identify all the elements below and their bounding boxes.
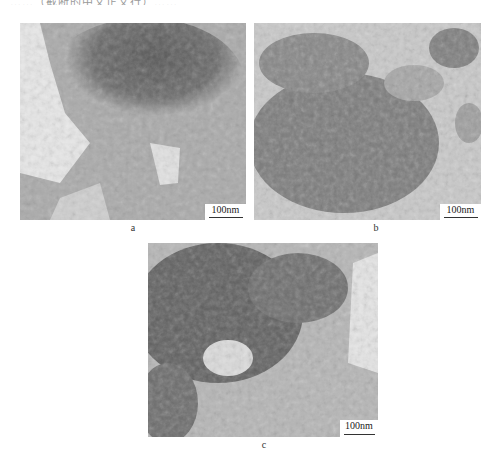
tem-image-a — [20, 23, 246, 220]
scale-bar-a: 100nm — [205, 204, 246, 220]
scale-bar-b: 100nm — [440, 204, 481, 220]
scale-bar-line-a — [209, 217, 243, 218]
scale-bar-label-c: 100nm — [345, 420, 373, 431]
tem-image-b — [254, 23, 481, 220]
truncated-body-text: ……（截断的中文正文行）…… — [10, 0, 330, 5]
scale-bar-c: 100nm — [340, 420, 378, 437]
panel-label-b: b — [366, 222, 386, 233]
scale-bar-line-c — [344, 434, 375, 435]
micrograph-a: 100nm — [20, 23, 246, 220]
micrograph-b: 100nm — [254, 23, 481, 220]
panel-label-a: a — [123, 222, 143, 233]
tem-image-c — [148, 243, 378, 437]
panel-label-c: c — [254, 439, 274, 450]
scale-bar-label-a: 100nm — [212, 204, 240, 215]
scale-bar-label-b: 100nm — [447, 204, 475, 215]
scale-bar-line-b — [444, 217, 478, 218]
micrograph-c: 100nm — [148, 243, 378, 437]
